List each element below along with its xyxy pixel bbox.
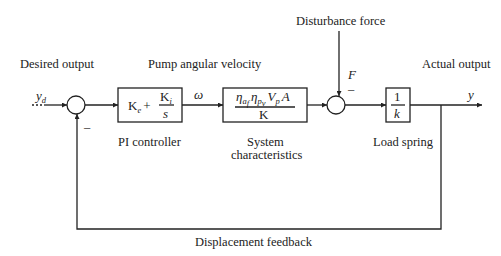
disturbance-minus-sign: – xyxy=(347,82,355,96)
load-spring-label: Load spring xyxy=(373,135,434,149)
desired-output-label: Desired output xyxy=(20,57,94,71)
actual-output-label: Actual output xyxy=(422,57,491,71)
feedback-minus-sign: – xyxy=(83,120,91,134)
spring-numerator: 1 xyxy=(394,89,401,104)
system-label-line2: characteristics xyxy=(231,148,303,162)
block-diagram: Desired output Pump angular velocity Dis… xyxy=(0,0,501,256)
summing-junction-disturbance xyxy=(327,96,345,114)
displacement-feedback-label: Displacement feedback xyxy=(195,235,313,249)
force-label: F xyxy=(347,67,357,82)
output-signal-label: y xyxy=(466,87,474,102)
feedback-path xyxy=(77,105,441,229)
input-signal-label: yd xyxy=(34,88,47,105)
system-denominator: K xyxy=(259,107,269,122)
pi-controller-label: PI controller xyxy=(118,135,182,149)
omega-label: ω xyxy=(194,87,203,102)
spring-denominator: k xyxy=(394,106,400,121)
pump-angular-velocity-label: Pump angular velocity xyxy=(148,57,262,71)
disturbance-force-label: Disturbance force xyxy=(296,14,386,28)
pi-integral-denominator: s xyxy=(163,106,168,121)
summing-junction-error xyxy=(67,96,85,114)
system-label-line1: System xyxy=(247,135,284,149)
